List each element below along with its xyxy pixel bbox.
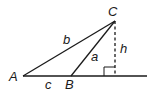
side-label-a: a [91, 49, 98, 64]
height-label-h: h [120, 41, 127, 56]
vertex-label-b: B [65, 77, 74, 92]
vertex-label-c: C [108, 4, 118, 19]
side-label-c: c [45, 77, 52, 92]
triangle-diagram: A B C b a c h [0, 0, 149, 93]
side-b [23, 21, 115, 76]
right-angle-marker [104, 67, 115, 76]
vertex-label-a: A [8, 69, 18, 84]
side-label-b: b [63, 32, 70, 47]
